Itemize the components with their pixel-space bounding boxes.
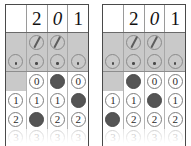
digit-bubble-3[interactable]: 3 bbox=[126, 130, 141, 145]
digit-bubble-1[interactable]: 1 bbox=[8, 93, 23, 108]
decimal-point-bubble[interactable] bbox=[105, 54, 120, 69]
digit-cell[interactable]: 2 bbox=[6, 110, 26, 129]
digit-bubble-1[interactable]: 1 bbox=[29, 93, 44, 108]
digit-bubble-1[interactable]: 1 bbox=[126, 93, 141, 108]
digit-cell[interactable]: 2 bbox=[67, 110, 88, 129]
digit-bubble-2[interactable]: 2 bbox=[50, 112, 65, 127]
digit-bubble-0[interactable]: 0 bbox=[50, 74, 65, 89]
digit-cell[interactable]: 0 bbox=[144, 72, 165, 91]
digit-bubble-label: 3 bbox=[110, 132, 116, 143]
written-answer-row[interactable]: 201 bbox=[103, 5, 185, 33]
digit-cell[interactable]: 3 bbox=[164, 129, 185, 146]
decimal-point-bubble[interactable] bbox=[8, 54, 23, 69]
digit-bubble-2[interactable]: 2 bbox=[147, 112, 162, 127]
fraction-bar-bubble[interactable] bbox=[50, 35, 65, 50]
digit-bubble-0[interactable]: 0 bbox=[168, 74, 183, 89]
digit-cell[interactable]: 2 bbox=[26, 110, 47, 129]
digit-cell[interactable]: 2 bbox=[103, 110, 123, 129]
decimal-point-cell[interactable] bbox=[144, 51, 165, 71]
digit-cell[interactable]: 1 bbox=[144, 91, 165, 110]
digit-bubble-3[interactable]: 3 bbox=[168, 130, 183, 145]
digit-cell[interactable]: 0 bbox=[164, 72, 185, 91]
fraction-bar-bubble[interactable] bbox=[126, 35, 141, 50]
fraction-bar-bubble[interactable] bbox=[147, 35, 162, 50]
decimal-point-cell[interactable] bbox=[67, 51, 88, 71]
digit-bubble-label: 3 bbox=[13, 132, 19, 143]
written-answer-cell[interactable] bbox=[6, 5, 26, 32]
digit-bubble-0[interactable]: 0 bbox=[126, 74, 141, 89]
decimal-dot-icon bbox=[174, 62, 177, 65]
digit-cell[interactable]: 1 bbox=[164, 91, 185, 110]
digit-bubble-0[interactable]: 0 bbox=[71, 74, 86, 89]
fraction-bar-bubble[interactable] bbox=[29, 35, 44, 50]
fraction-bar-cell[interactable] bbox=[123, 33, 144, 51]
fraction-bar-cell[interactable] bbox=[26, 33, 47, 51]
digit-cell[interactable]: 0 bbox=[67, 72, 88, 91]
fraction-bar-cell[interactable] bbox=[47, 33, 68, 51]
written-answer-cell[interactable]: 1 bbox=[67, 5, 88, 32]
digit-bubble-3[interactable]: 3 bbox=[71, 130, 86, 145]
digit-cell[interactable]: 2 bbox=[164, 110, 185, 129]
decimal-point-bubble[interactable] bbox=[71, 54, 86, 69]
digit-bubble-3[interactable]: 3 bbox=[8, 130, 23, 145]
digit-bubble-0[interactable]: 0 bbox=[147, 74, 162, 89]
digit-bubble-1[interactable]: 1 bbox=[168, 93, 183, 108]
digit-bubble-1[interactable]: 1 bbox=[50, 93, 65, 108]
digit-cell[interactable]: 3 bbox=[26, 129, 47, 146]
digit-cell[interactable]: 1 bbox=[47, 91, 68, 110]
digit-cell[interactable]: 3 bbox=[67, 129, 88, 146]
decimal-point-cell[interactable] bbox=[103, 51, 123, 71]
written-answer-cell[interactable]: 1 bbox=[164, 5, 185, 32]
digit-bubble-2[interactable]: 2 bbox=[105, 112, 120, 127]
decimal-point-cell[interactable] bbox=[26, 51, 47, 71]
written-answer-text: 1 bbox=[170, 9, 180, 28]
written-answer-cell[interactable]: 0 bbox=[47, 5, 68, 32]
digit-cell[interactable]: 3 bbox=[6, 129, 26, 146]
digit-cell[interactable]: 1 bbox=[123, 91, 144, 110]
decimal-point-row bbox=[6, 51, 88, 71]
digit-cell[interactable]: 0 bbox=[26, 72, 47, 91]
decimal-point-cell[interactable] bbox=[164, 51, 185, 71]
digit-bubble-2[interactable]: 2 bbox=[71, 112, 86, 127]
decimal-point-bubble[interactable] bbox=[168, 54, 183, 69]
decimal-point-cell[interactable] bbox=[123, 51, 144, 71]
decimal-point-bubble[interactable] bbox=[29, 54, 44, 69]
digit-bubble-1[interactable]: 1 bbox=[147, 93, 162, 108]
digit-bubble-3[interactable]: 3 bbox=[50, 130, 65, 145]
digit-cell[interactable]: 3 bbox=[103, 129, 123, 146]
decimal-point-bubble[interactable] bbox=[50, 54, 65, 69]
digit-cell[interactable]: 3 bbox=[144, 129, 165, 146]
decimal-point-bubble[interactable] bbox=[126, 54, 141, 69]
digit-cell[interactable]: 2 bbox=[123, 110, 144, 129]
digit-cell[interactable]: 1 bbox=[67, 91, 88, 110]
digit-cell[interactable]: 2 bbox=[144, 110, 165, 129]
decimal-point-cell[interactable] bbox=[47, 51, 68, 71]
digit-bubble-2[interactable]: 2 bbox=[29, 112, 44, 127]
written-answer-cell[interactable]: 0 bbox=[144, 5, 165, 32]
written-answer-cell[interactable]: 2 bbox=[123, 5, 144, 32]
digit-cell[interactable]: 0 bbox=[123, 72, 144, 91]
digit-cell[interactable]: 1 bbox=[103, 91, 123, 110]
written-answer-row[interactable]: 201 bbox=[6, 5, 88, 33]
digit-cell[interactable]: 3 bbox=[123, 129, 144, 146]
digit-cell[interactable]: 0 bbox=[47, 72, 68, 91]
written-answer-cell[interactable]: 2 bbox=[26, 5, 47, 32]
digit-bubble-1[interactable]: 1 bbox=[71, 93, 86, 108]
digit-cell[interactable]: 3 bbox=[47, 129, 68, 146]
decimal-point-cell[interactable] bbox=[6, 51, 26, 71]
digit-bubble-3[interactable]: 3 bbox=[147, 130, 162, 145]
digit-cell[interactable]: 2 bbox=[47, 110, 68, 129]
digit-bubble-2[interactable]: 2 bbox=[168, 112, 183, 127]
decimal-dot-icon bbox=[153, 62, 156, 65]
digit-bubble-2[interactable]: 2 bbox=[8, 112, 23, 127]
digit-bubble-3[interactable]: 3 bbox=[29, 130, 44, 145]
fraction-bar-cell[interactable] bbox=[144, 33, 165, 51]
digit-bubble-2[interactable]: 2 bbox=[126, 112, 141, 127]
decimal-point-bubble[interactable] bbox=[147, 54, 162, 69]
written-answer-cell[interactable] bbox=[103, 5, 123, 32]
digit-cell[interactable]: 1 bbox=[26, 91, 47, 110]
digit-bubble-3[interactable]: 3 bbox=[105, 130, 120, 145]
digit-cell[interactable]: 1 bbox=[6, 91, 26, 110]
digit-bubble-1[interactable]: 1 bbox=[105, 93, 120, 108]
digit-bubble-0[interactable]: 0 bbox=[29, 74, 44, 89]
